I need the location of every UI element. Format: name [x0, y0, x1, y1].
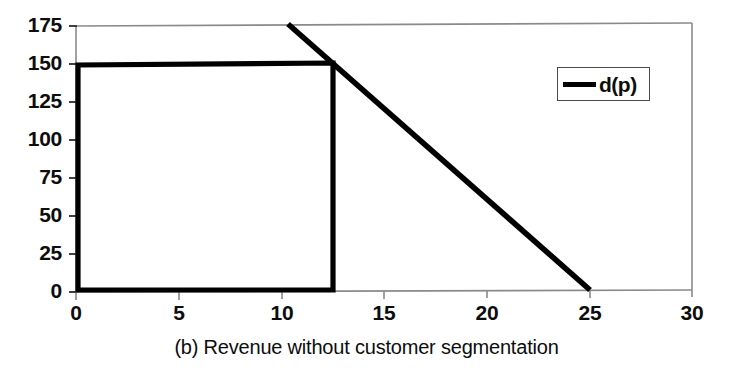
legend: d(p): [557, 67, 650, 101]
legend-label-dp: d(p): [599, 74, 637, 95]
x-tick-label-5: 5: [149, 301, 209, 325]
y-tick-label-50: 50: [4, 203, 62, 227]
y-tick-label-0: 0: [4, 279, 62, 303]
y-tick-label-125: 125: [4, 89, 62, 113]
y-tick-label-75: 75: [4, 165, 62, 189]
x-tick-label-15: 15: [354, 301, 414, 325]
x-tick-label-30: 30: [662, 301, 722, 325]
x-tick-label-0: 0: [46, 301, 106, 325]
legend-line-swatch-icon: [563, 82, 596, 87]
y-tick-label-25: 25: [4, 241, 62, 265]
revenue-chart-figure: 175 150 125 100 75 50 25 0 0 5 10 15 20 …: [0, 0, 733, 379]
x-tick-label-10: 10: [252, 301, 312, 325]
revenue-rectangle: [78, 63, 333, 290]
y-tick-label-175: 175: [4, 13, 62, 37]
figure-caption: (b) Revenue without customer segmentatio…: [0, 336, 733, 359]
x-tick-label-20: 20: [457, 301, 517, 325]
y-tick-label-150: 150: [4, 51, 62, 75]
y-tick-label-100: 100: [4, 127, 62, 151]
x-tick-label-25: 25: [560, 301, 620, 325]
